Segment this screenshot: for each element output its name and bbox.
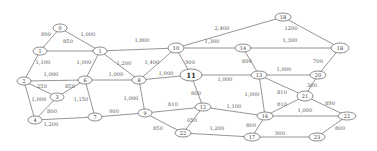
graph-node: 23 bbox=[309, 133, 325, 141]
edge-weight-label: 1,000 bbox=[218, 76, 233, 82]
edge-weight-label: 800 bbox=[191, 90, 201, 96]
edge-weight-label: 700 bbox=[313, 58, 323, 64]
graph-node: 4 bbox=[28, 116, 42, 124]
graph-node: 16 bbox=[257, 112, 273, 120]
edge-weight-label: 890 bbox=[41, 31, 51, 37]
graph-node: 6 bbox=[78, 76, 92, 84]
node-label: 1 bbox=[98, 48, 101, 54]
graph-node: 13 bbox=[251, 71, 267, 79]
graph-node: 22 bbox=[175, 129, 191, 137]
node-label: 0 bbox=[58, 25, 61, 31]
edge-weight-label: 1,000 bbox=[109, 71, 124, 77]
node-label: 17 bbox=[249, 134, 255, 140]
graph-node: 1 bbox=[93, 47, 107, 55]
edge-weight-label: 1,200 bbox=[117, 60, 132, 66]
edge-weight-label: 1,200 bbox=[210, 125, 225, 131]
graph-edge bbox=[139, 80, 145, 113]
node-label: 13 bbox=[256, 72, 262, 78]
edge-weight-label: 1,300 bbox=[283, 37, 298, 43]
edge-weight-label: 1,100 bbox=[227, 103, 242, 109]
edge-weight-label: 1,000 bbox=[44, 71, 59, 77]
node-label: 14 bbox=[240, 45, 246, 51]
edge-weight-label: 1,200 bbox=[44, 121, 59, 127]
edge-weight-label: 250 bbox=[37, 83, 47, 89]
node-label: 21 bbox=[302, 93, 308, 99]
graph-node: 0 bbox=[53, 24, 67, 32]
edge-weight-label: 850 bbox=[65, 83, 75, 89]
node-label: 16 bbox=[262, 113, 268, 119]
edge-weight-label: 800 bbox=[47, 108, 57, 114]
edge-weight-label: 1,000 bbox=[245, 91, 260, 97]
edge-weight-label: 800 bbox=[335, 125, 345, 131]
graph-edge bbox=[24, 80, 85, 81]
edge-weight-label: 810 bbox=[277, 89, 287, 95]
graph-node: 8 bbox=[132, 76, 146, 84]
node-label: 6 bbox=[83, 77, 86, 83]
node-label: 22 bbox=[180, 130, 186, 136]
graph-edge bbox=[183, 133, 252, 137]
edge-weight-label: 1,000 bbox=[124, 95, 139, 101]
graph-node: 9 bbox=[138, 109, 152, 117]
edge-weight-label: 1,300 bbox=[205, 38, 220, 44]
node-label: 11 bbox=[186, 71, 196, 80]
graph-node: 18 bbox=[331, 43, 349, 53]
edge-weight-label: 1200 bbox=[284, 25, 297, 31]
node-label: 10 bbox=[173, 45, 179, 51]
edge-weight-label: 1,150 bbox=[74, 96, 89, 102]
node-label: 20 bbox=[315, 72, 321, 78]
edge-weight-label: 2,400 bbox=[215, 25, 230, 31]
node-label: 7 bbox=[93, 114, 96, 120]
graph-node: 2 bbox=[17, 77, 31, 85]
graph-edge bbox=[283, 17, 340, 48]
graph-edge bbox=[35, 117, 95, 120]
edge-weight-label: 890 bbox=[242, 58, 252, 64]
graph-node: 3 bbox=[50, 93, 64, 101]
graph-node: 7 bbox=[88, 113, 102, 121]
graph-node: 10 bbox=[168, 43, 184, 53]
node-label: 18 bbox=[337, 45, 343, 51]
node-label: 22 bbox=[344, 113, 350, 119]
edge-weight-label: 1,000 bbox=[298, 107, 313, 113]
graph-edge bbox=[24, 51, 40, 81]
node-label: 23 bbox=[314, 134, 320, 140]
graph-node: 17 bbox=[244, 133, 260, 141]
edge-weight-label: 1,000 bbox=[277, 66, 292, 72]
edge-weight-label: 1,400 bbox=[145, 59, 160, 65]
edge-weight-label: 1,100 bbox=[36, 59, 51, 65]
edge-weight-label: 850 bbox=[153, 125, 163, 131]
graph-edge bbox=[176, 17, 283, 48]
node-label: 18 bbox=[280, 14, 286, 20]
node-label: 12 bbox=[200, 104, 206, 110]
edge-weight-label: 1,000 bbox=[32, 96, 47, 102]
edge-weight-label: 890 bbox=[325, 100, 335, 106]
node-label: 9 bbox=[143, 110, 146, 116]
graph-edge bbox=[85, 51, 100, 80]
graph-node: 22 bbox=[338, 112, 356, 120]
edge-weight-label: 1,000 bbox=[77, 59, 92, 65]
edge-weight-label: 300 bbox=[307, 82, 317, 88]
node-label: 4 bbox=[33, 117, 36, 123]
edge-weight-label: 810 bbox=[168, 101, 178, 107]
edge-weight-label: 1,000 bbox=[159, 70, 174, 76]
graph-node: 14 bbox=[235, 44, 251, 52]
graph-node: 21 bbox=[297, 91, 313, 101]
edge-weight-label: 1,000 bbox=[81, 31, 96, 37]
graph-edge bbox=[145, 107, 203, 113]
node-label: 8 bbox=[137, 77, 140, 83]
graph-node: 12 bbox=[195, 103, 211, 111]
edge-weight-label: 650 bbox=[187, 117, 197, 123]
edge-weight-label: 800 bbox=[246, 122, 256, 128]
edge-weight-label: 810 bbox=[277, 101, 287, 107]
graph-node: 1 bbox=[33, 47, 47, 55]
edge-weight-label: 900 bbox=[275, 130, 285, 136]
edge-weight-label: 850 bbox=[63, 38, 73, 44]
node-label: 3 bbox=[55, 94, 58, 100]
graph-node: 20 bbox=[310, 71, 326, 79]
graph-edge bbox=[100, 48, 176, 51]
weighted-graph-diagram: 8901,0008501,1001,0002501,0008508001,200… bbox=[0, 0, 377, 151]
node-label: 2 bbox=[22, 78, 25, 84]
graph-node: 11 bbox=[180, 69, 202, 81]
graph-edge bbox=[95, 113, 145, 117]
graph-edge bbox=[259, 75, 265, 116]
edge-weight-label: 900 bbox=[185, 59, 195, 65]
